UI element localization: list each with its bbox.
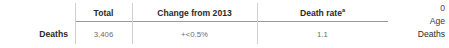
column-header-death-rate-label: Death rate <box>300 8 342 18</box>
column-header-death-rate: Death ratea <box>257 7 388 19</box>
column-header-total: Total <box>75 7 132 19</box>
statistics-table-panel: Total Change from 2013 Death ratea Death… <box>0 0 449 48</box>
cell-deaths-total: 3,406 <box>75 29 132 40</box>
column-header-change-from-2013: Change from 2013 <box>132 7 257 19</box>
axis-label-age: Age <box>389 15 445 28</box>
cell-deaths-death-rate: 1.1 <box>257 29 388 40</box>
header-separator-rule <box>75 21 388 22</box>
series-label-deaths: Deaths <box>389 28 445 41</box>
chart-axis-label-group: 0 Age Deaths <box>389 2 445 41</box>
axis-tick-value-zero: 0 <box>389 2 445 15</box>
row-header-deaths: Deaths <box>8 28 68 40</box>
column-header-total-label: Total <box>94 8 114 18</box>
footnote-marker-death-rate: a <box>342 7 345 13</box>
column-header-change-label: Change from 2013 <box>157 8 232 18</box>
deaths-summary-table: Total Change from 2013 Death ratea Death… <box>0 0 390 48</box>
cell-deaths-change-from-2013: +<0.5% <box>132 29 257 40</box>
